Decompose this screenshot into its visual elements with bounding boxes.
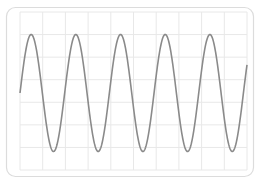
sine-wave-chart [0,0,259,183]
chart-frame [7,8,254,177]
